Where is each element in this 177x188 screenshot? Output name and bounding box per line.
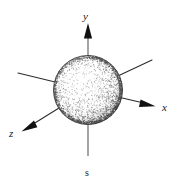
y-axis-label: y	[82, 10, 88, 22]
z-axis-label: z	[8, 127, 14, 139]
coordinate-axes-figure: y x z s	[0, 0, 177, 188]
s-axis-label: s	[85, 167, 89, 178]
figure-canvas: y x z s	[0, 0, 177, 188]
x-axis-label: x	[161, 101, 167, 113]
